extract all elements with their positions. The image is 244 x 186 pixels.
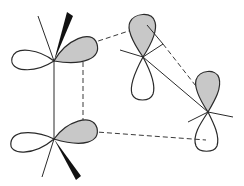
shaded-lobe (129, 14, 156, 57)
dashed-line-bottom (83, 131, 206, 140)
orbital-diagram (0, 0, 244, 186)
wedge-bond (54, 139, 81, 180)
open-lobe (12, 50, 54, 69)
bond-line (42, 139, 54, 177)
bond-line-right (208, 112, 233, 117)
top-right-carbon (120, 14, 208, 112)
shaded-lobe (196, 71, 220, 112)
shaded-lobe (54, 120, 97, 143)
open-lobe (11, 133, 54, 153)
bond-line (38, 16, 54, 61)
open-lobe (195, 112, 218, 151)
bottom-right-carbon (188, 71, 233, 151)
